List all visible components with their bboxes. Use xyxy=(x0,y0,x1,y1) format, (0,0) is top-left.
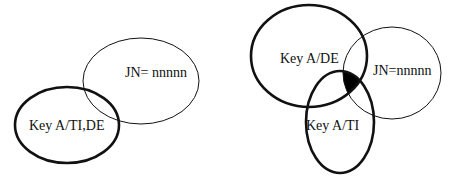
right-key-de-label: Key A/DE xyxy=(280,52,339,66)
right-jn-label: JN=nnnnn xyxy=(373,64,431,78)
right-key-ti-label: Key A/TI xyxy=(306,119,359,133)
venn-figure: JN= nnnnn Key A/TI,DE Key A/DE JN=nnnnn … xyxy=(0,0,456,180)
left-jn-ellipse xyxy=(83,38,199,124)
venn-shapes xyxy=(0,0,456,180)
left-jn-label: JN= nnnnn xyxy=(125,66,187,80)
left-key-ti-de-label: Key A/TI,DE xyxy=(29,119,104,133)
